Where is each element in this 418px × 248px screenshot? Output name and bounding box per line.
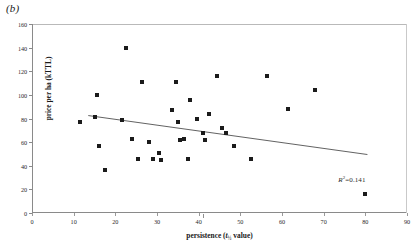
data-point xyxy=(220,126,224,130)
x-tick-label: 20 xyxy=(112,218,118,225)
y-tick-mark xyxy=(29,189,33,190)
data-point xyxy=(174,80,178,84)
y-tick-mark xyxy=(29,24,33,25)
y-tick-mark xyxy=(29,142,33,143)
data-point xyxy=(93,115,97,119)
data-point xyxy=(201,131,205,135)
data-point xyxy=(363,192,367,196)
panel-label: (b) xyxy=(6,2,19,14)
data-point xyxy=(186,157,190,161)
y-tick-mark xyxy=(29,71,33,72)
y-tick-mark xyxy=(29,119,33,120)
x-tick-mark xyxy=(157,213,158,216)
y-tick-label: 20 xyxy=(21,186,27,193)
data-point xyxy=(130,137,134,141)
y-tick-label: 60 xyxy=(21,139,27,146)
x-tick-label: 0 xyxy=(30,218,33,225)
x-tick-mark xyxy=(240,213,241,216)
right-axis-rule xyxy=(406,24,407,213)
figure-panel-b: (b) 020406080100120140160 01020304050607… xyxy=(0,0,418,248)
y-tick-label: 80 xyxy=(21,115,27,122)
data-point xyxy=(249,157,253,161)
data-point xyxy=(313,88,317,92)
data-point xyxy=(170,108,174,112)
data-point xyxy=(157,151,161,155)
x-tick-label: 80 xyxy=(362,218,368,225)
x-tick-label: 50 xyxy=(237,218,243,225)
data-point xyxy=(151,157,155,161)
y-tick-mark xyxy=(29,95,33,96)
data-point xyxy=(136,157,140,161)
data-point xyxy=(224,131,228,135)
plot-area xyxy=(32,24,407,213)
y-axis-title: price per ha (kTTL) xyxy=(44,29,53,149)
data-point xyxy=(120,118,124,122)
data-point xyxy=(95,93,99,97)
x-tick-label: 30 xyxy=(154,218,160,225)
plot-frame: 020406080100120140160 010203040506070809… xyxy=(32,24,407,213)
x-tick-mark xyxy=(407,213,408,216)
y-tick-mark xyxy=(29,166,33,167)
data-point xyxy=(215,74,219,78)
data-point xyxy=(286,107,290,111)
data-point xyxy=(140,80,144,84)
data-point xyxy=(124,46,128,50)
data-point xyxy=(78,120,82,124)
y-tick-label: 160 xyxy=(18,21,27,28)
x-axis-stray-tick xyxy=(203,214,204,218)
x-tick-label: 40 xyxy=(196,218,202,225)
x-tick-mark xyxy=(74,213,75,216)
x-tick-mark xyxy=(32,213,33,216)
y-tick-label: 100 xyxy=(18,91,27,98)
data-point xyxy=(203,138,207,142)
top-axis-rule xyxy=(32,24,407,25)
y-tick-label: 140 xyxy=(18,44,27,51)
x-tick-mark xyxy=(199,213,200,216)
x-tick-mark xyxy=(282,213,283,216)
data-point xyxy=(195,117,199,121)
data-point xyxy=(265,74,269,78)
x-tick-label: 70 xyxy=(321,218,327,225)
y-tick-mark xyxy=(29,48,33,49)
data-point xyxy=(103,168,107,172)
data-point xyxy=(159,158,163,162)
y-tick-label: 40 xyxy=(21,162,27,169)
x-tick-mark xyxy=(324,213,325,216)
x-tick-mark xyxy=(365,213,366,216)
y-tick-label: 120 xyxy=(18,68,27,75)
x-tick-label: 10 xyxy=(71,218,77,225)
data-point xyxy=(182,137,186,141)
data-point xyxy=(176,120,180,124)
data-point xyxy=(232,144,236,148)
x-tick-label: 60 xyxy=(279,218,285,225)
data-point xyxy=(97,144,101,148)
data-point xyxy=(207,112,211,116)
x-tick-mark xyxy=(115,213,116,216)
r-squared-annotation: R2=0.141 xyxy=(338,175,365,184)
data-point xyxy=(147,140,151,144)
x-axis-title: persistence (t½ value) xyxy=(32,231,407,241)
y-tick-label: 0 xyxy=(24,210,27,217)
x-tick-label: 90 xyxy=(404,218,410,225)
data-point xyxy=(188,98,192,102)
